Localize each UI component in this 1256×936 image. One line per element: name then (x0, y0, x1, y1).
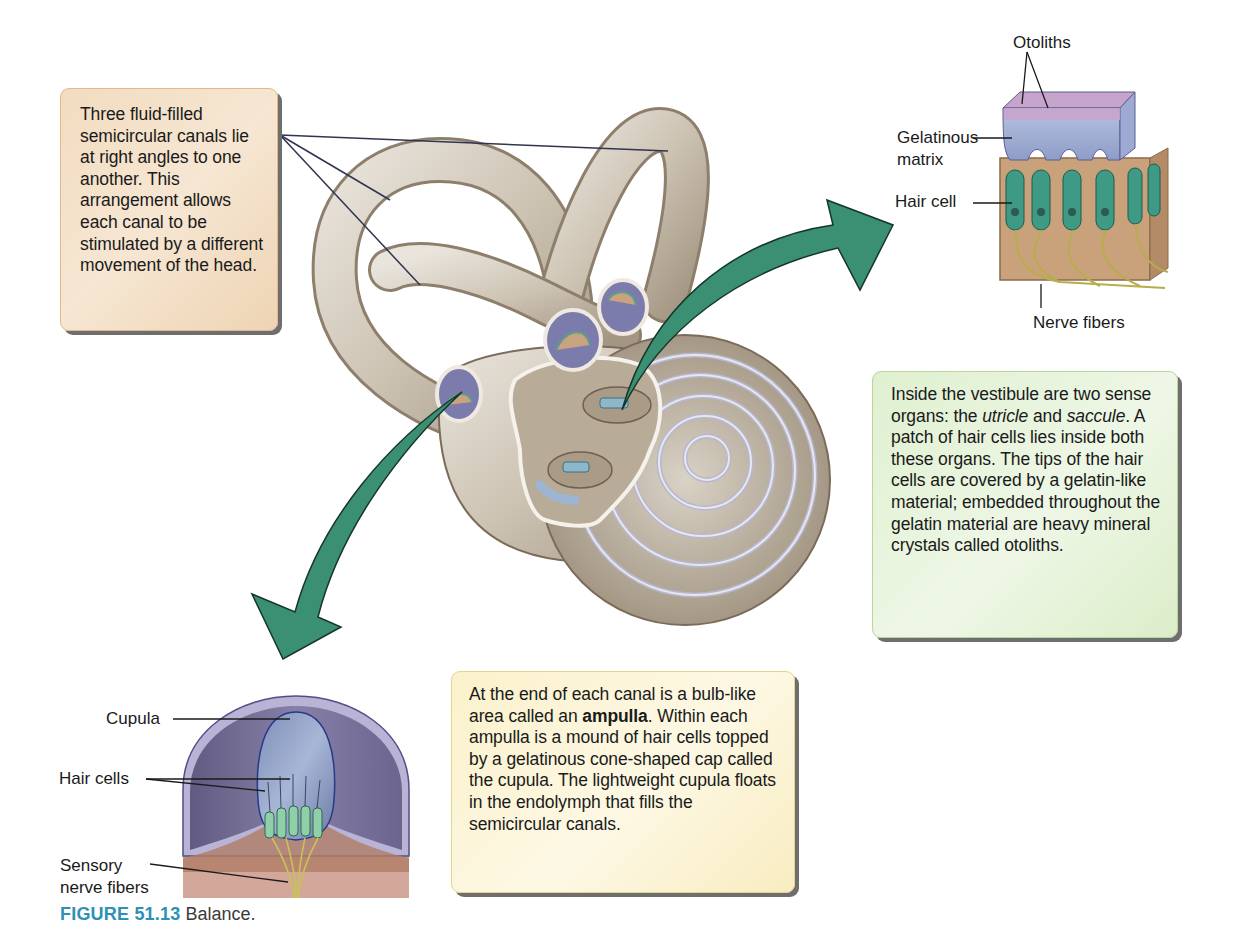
label-sensory-nerve-fibers-line1: Sensory (60, 856, 122, 876)
label-cupula: Cupula (106, 709, 160, 729)
label-gelatinous-matrix-line2: matrix (897, 150, 943, 170)
label-sensory-nerve-fibers-line2: nerve fibers (60, 878, 149, 898)
text-run: . A patch of hair cells lies inside both… (891, 406, 1160, 556)
term-utricle: utricle (982, 406, 1028, 426)
ampulla-bulb (545, 310, 601, 370)
ampulla-bulb (599, 280, 647, 334)
label-hair-cells: Hair cells (59, 769, 129, 789)
otolith-organ-illustration (973, 52, 1168, 308)
callout-vestibule: Inside the vestibule are two sense organ… (872, 371, 1178, 638)
callout-ampulla-text: At the end of each canal is a bulb-like … (469, 684, 784, 835)
figure-title: Balance. (185, 904, 255, 924)
callout-ampulla: At the end of each canal is a bulb-like … (451, 671, 795, 893)
callout-canals-text: Three fluid-filled semicircular canals l… (80, 104, 267, 277)
label-nerve-fibers: Nerve fibers (1033, 313, 1125, 333)
callout-vestibule-text: Inside the vestibule are two sense organ… (891, 384, 1167, 557)
figure-caption: FIGURE 51.13 Balance. (60, 904, 256, 925)
label-hair-cell: Hair cell (895, 192, 956, 212)
figure-number: FIGURE 51.13 (60, 904, 180, 924)
arrow-to-ampulla (252, 392, 462, 659)
label-otoliths: Otoliths (1013, 33, 1071, 53)
term-ampulla: ampulla (582, 706, 647, 726)
ampulla-crista-illustration (146, 696, 409, 898)
inner-ear-illustration (335, 130, 830, 625)
text-run: and (1028, 406, 1066, 426)
callout-semicircular-canals: Three fluid-filled semicircular canals l… (60, 88, 278, 331)
term-saccule: saccule (1067, 406, 1126, 426)
label-gelatinous-matrix-line1: Gelatinous (897, 128, 978, 148)
